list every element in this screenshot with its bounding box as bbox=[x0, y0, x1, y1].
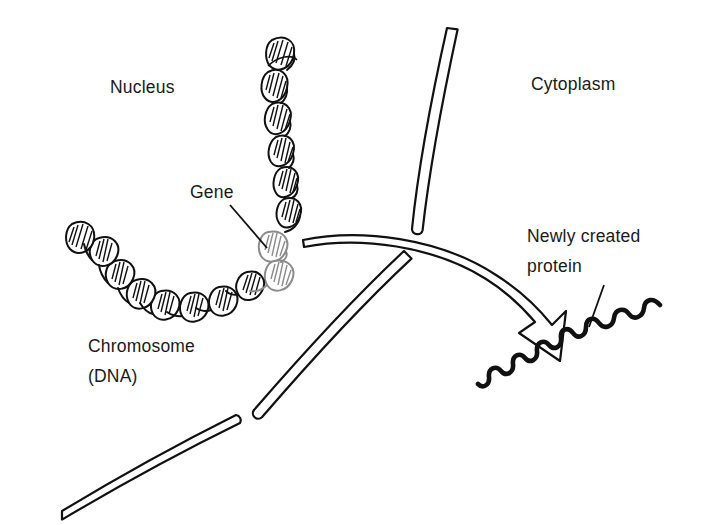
label-chromosome-line1: Chromosome bbox=[88, 336, 195, 356]
label-chromosome-line2: (DNA) bbox=[88, 366, 138, 386]
transport-arrow bbox=[303, 235, 566, 361]
label-cytoplasm: Cytoplasm bbox=[531, 74, 615, 94]
gene-leader-line bbox=[230, 205, 267, 248]
transport-arrow-body bbox=[303, 235, 566, 361]
label-protein-line2: protein bbox=[527, 256, 582, 276]
gene-expression-diagram: Nucleus Cytoplasm Gene Chromosome (DNA) … bbox=[0, 0, 704, 525]
label-nucleus: Nucleus bbox=[110, 77, 175, 97]
label-protein-line1: Newly created bbox=[527, 226, 640, 246]
protein-squiggle bbox=[478, 300, 660, 386]
chromosome-dna-helix bbox=[66, 38, 301, 322]
nuclear-membrane-segment-lower bbox=[62, 415, 241, 520]
diagram-canvas: Nucleus Cytoplasm Gene Chromosome (DNA) … bbox=[0, 0, 704, 525]
nuclear-membrane-segment-upper bbox=[412, 28, 458, 234]
label-gene: Gene bbox=[190, 182, 234, 202]
